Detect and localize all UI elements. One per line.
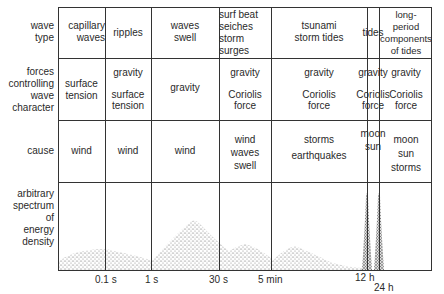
cell-cause-ripples: wind xyxy=(105,145,151,157)
row-divider-1 xyxy=(58,58,431,59)
tick-0.1s: 0.1 s xyxy=(95,274,117,285)
row-divider-3 xyxy=(58,182,431,183)
tick-1s: 1 s xyxy=(145,274,158,285)
cell-cause-surf-beat: wind waves swell xyxy=(219,133,271,172)
tick-30s: 30 s xyxy=(209,274,228,285)
tick-12h: 12 h xyxy=(355,272,374,283)
table-left-border xyxy=(58,7,59,271)
cell-wave-type-surf-beat: surf beat seiches storm surges xyxy=(219,9,271,57)
cell-forces-long-period: gravity Coriolis force xyxy=(381,67,431,111)
table-top-border xyxy=(58,7,431,8)
col-divider-1s xyxy=(151,7,152,271)
cell-forces-waves: gravity xyxy=(151,82,219,94)
row-divider-2 xyxy=(58,120,431,121)
cell-forces-capillary: surface tension xyxy=(58,78,105,102)
cell-forces-ripples: gravity surface tension xyxy=(105,67,151,111)
x-axis xyxy=(58,270,431,271)
cell-cause-waves: wind xyxy=(151,145,219,157)
tsunami-hump xyxy=(271,246,362,270)
tick-5min: 5 min xyxy=(258,274,282,285)
tick-24h: 24 h xyxy=(374,282,393,293)
cell-wave-type-waves: waves swell xyxy=(151,20,219,44)
cell-cause-long-period: moon sun storms xyxy=(381,133,431,175)
cell-wave-type-ripples: ripples xyxy=(105,27,151,39)
cell-wave-type-capillary: capillary waves xyxy=(58,20,105,44)
cell-cause-capillary: wind xyxy=(58,145,105,157)
cell-forces-surf-beat: gravity Coriolis force xyxy=(219,67,271,111)
col-divider-0.1s xyxy=(105,7,106,271)
cell-wave-type-long-period: long- period components of tides xyxy=(379,9,433,57)
cell-wave-type-tsunami: tsunami storm tides xyxy=(271,20,367,44)
